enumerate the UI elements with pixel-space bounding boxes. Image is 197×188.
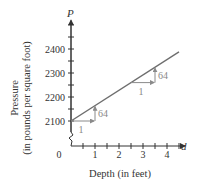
data-line (71, 52, 179, 121)
run-label: 1 (139, 86, 144, 97)
rise-label: 64 (158, 70, 168, 81)
x-tick-label: 3 (141, 149, 146, 160)
rise-label: 64 (98, 108, 108, 119)
run-label: 1 (79, 124, 84, 135)
pressure-line (71, 52, 179, 121)
x-axis-title: Depth (in feet) (89, 168, 151, 180)
y-tick-label: 2200 (45, 92, 65, 103)
y-tick-label: 2300 (45, 68, 65, 79)
y-axis-title-line1: Pressure (9, 80, 20, 116)
x-tick-label: 1 (93, 149, 98, 160)
y-variable-label: P (66, 7, 74, 19)
x-tick-label: 4 (165, 149, 170, 160)
x-tick-label: 2 (117, 149, 122, 160)
axis-break-icon (69, 132, 73, 146)
chart-svg: 12342100220023002400 164164 Pressure (in… (0, 0, 197, 188)
axes (69, 20, 185, 146)
y-tick-label: 2400 (45, 44, 65, 55)
slope-annotations: 164164 (71, 68, 168, 135)
tick-labels: 12342100220023002400 (45, 44, 170, 161)
x-variable-label: d (181, 140, 187, 152)
origin-label: 0 (57, 149, 62, 160)
y-axis-title-line2: (in pounds per square foot) (21, 41, 33, 155)
y-tick-label: 2100 (45, 116, 65, 127)
